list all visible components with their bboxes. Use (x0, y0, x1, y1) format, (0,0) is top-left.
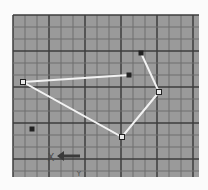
diagram-canvas: X Y (0, 0, 208, 190)
isolated-point (30, 127, 35, 132)
y-axis-label: Y (76, 170, 82, 178)
vertex-end-mid (127, 73, 132, 78)
x-axis-label: X (48, 152, 55, 163)
vertex-top (139, 51, 144, 56)
grid-diagram: X Y (0, 0, 208, 190)
vertex-left (21, 80, 26, 85)
vertex-right (157, 90, 162, 95)
vertex-bottom (120, 135, 125, 140)
